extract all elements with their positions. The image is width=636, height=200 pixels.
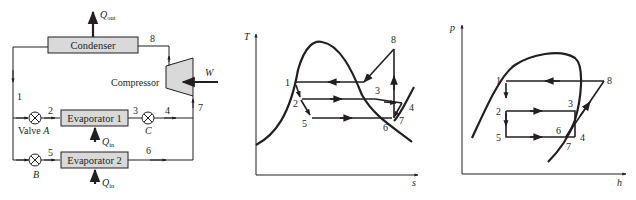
- ph-state-2: 2: [496, 106, 501, 117]
- state-8-label: 8: [150, 33, 155, 44]
- evaporator-1-label: Evaporator 1: [67, 113, 122, 124]
- heat-in-arrow-evap2: Qin: [95, 170, 115, 189]
- figure: Condenser Qout Eva: [0, 0, 636, 200]
- heat-out-arrow: Qout: [93, 9, 116, 37]
- ph-x-axis-label: h: [617, 177, 622, 188]
- ts-state-3: 3: [375, 85, 380, 96]
- state-1-label: 1: [17, 91, 22, 102]
- evaporator-1: Evaporator 1: [61, 110, 128, 126]
- refrigeration-schematic: Condenser Qout Eva: [13, 9, 218, 189]
- ph-state-5: 5: [496, 132, 501, 143]
- valve-c-label: C: [145, 125, 152, 136]
- ph-state-4: 4: [580, 132, 585, 143]
- ts-state-6: 6: [383, 122, 388, 133]
- state-5-label: 5: [48, 147, 53, 158]
- ph-state-3: 3: [568, 98, 573, 109]
- heat-in-arrow-evap1: Qin: [95, 128, 115, 148]
- ph-diagram: p h 1 2 3 4 5 6 7 8: [449, 22, 626, 188]
- state-7-label: 7: [198, 102, 203, 113]
- ts-x-axis-label: s: [412, 177, 416, 188]
- ts-state-2: 2: [293, 98, 298, 109]
- work-label: W: [205, 67, 215, 78]
- state-6-label: 6: [146, 145, 151, 156]
- condenser-label: Condenser: [71, 40, 116, 51]
- compressor-label: Compressor: [111, 77, 160, 88]
- pipe-condenser-to-valves: [13, 47, 48, 160]
- state-4-label: 4: [165, 105, 170, 116]
- valve-b-label: B: [33, 169, 39, 180]
- ph-state-1: 1: [496, 75, 501, 86]
- ph-state-6: 6: [556, 125, 561, 136]
- ph-state-8: 8: [607, 75, 612, 86]
- compressor: Compressor: [111, 58, 193, 96]
- valve-c: [142, 112, 154, 124]
- ts-state-1: 1: [285, 77, 290, 88]
- q-out-label: Qout: [100, 9, 116, 21]
- ts-state-8: 8: [391, 34, 396, 45]
- ts-diagram: T s 1 2 3 4 5 6 7 8: [244, 31, 418, 188]
- ts-state-4: 4: [409, 102, 414, 113]
- condenser: Condenser: [48, 37, 138, 53]
- ts-y-axis-label: T: [244, 31, 251, 42]
- q-in-label-1: Qin: [102, 136, 115, 148]
- state-3-label: 3: [133, 105, 138, 116]
- evaporator-2: Evaporator 2: [61, 152, 128, 168]
- state-2-label: 2: [48, 105, 53, 116]
- ts-state-5: 5: [302, 118, 307, 129]
- valve-b: [29, 154, 41, 166]
- ts-state-7: 7: [399, 115, 404, 126]
- valve-a: [29, 112, 41, 124]
- ts-saturation-dome: [256, 42, 412, 145]
- valve-a-label: Valve A: [18, 125, 50, 136]
- q-in-label-2: Qin: [102, 177, 115, 189]
- ph-saturation-dome: [472, 53, 581, 162]
- ph-y-axis-label: p: [449, 22, 455, 33]
- ph-state-7: 7: [566, 141, 571, 152]
- evaporator-2-label: Evaporator 2: [67, 155, 122, 166]
